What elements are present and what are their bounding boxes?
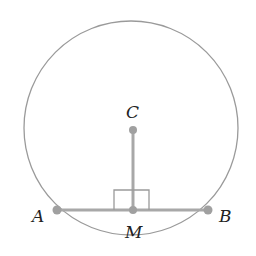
point-b: [204, 206, 213, 215]
label-b: B: [218, 206, 232, 226]
point-a: [53, 206, 62, 215]
point-m: [129, 206, 137, 214]
circle-chord-diagram: C A B M: [0, 0, 256, 256]
point-c: [129, 126, 137, 134]
label-a: A: [30, 206, 44, 226]
label-c: C: [126, 102, 139, 122]
label-m: M: [124, 222, 143, 242]
